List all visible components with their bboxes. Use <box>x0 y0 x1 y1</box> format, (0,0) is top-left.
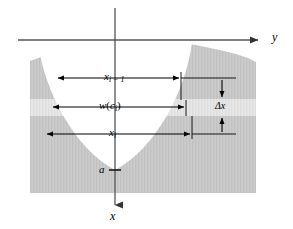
diagram-svg <box>0 0 293 229</box>
dim-label-x-i: xi <box>109 127 116 140</box>
dim-label-x-i-minus-1: xi − 1 <box>104 71 124 84</box>
vertex-label-a: a <box>99 164 105 175</box>
y-axis-label: y <box>272 31 277 43</box>
dim-label-w-c-i: w(ci) <box>99 100 121 113</box>
figure-canvas: y x xi − 1 w(ci) xi Δx a <box>0 0 293 229</box>
x-axis-label: x <box>110 210 115 222</box>
dim-label-delta-x: Δx <box>215 101 225 111</box>
